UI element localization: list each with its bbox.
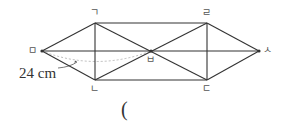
label-siot: ㅅ <box>263 45 272 55</box>
label-mieum: ㅁ <box>28 46 37 56</box>
point-mieum <box>40 49 43 52</box>
measurement-label: 24 cm <box>19 66 56 81</box>
geometry-figure: ㄱ ㄹ ㄴ ㄷ ㅁ ㅂ ㅅ 24 cm ( <box>0 0 286 124</box>
label-giyeok: ㄱ <box>90 8 99 18</box>
answer-blank-paren: ( <box>121 99 128 119</box>
point-bieup <box>149 49 152 52</box>
label-rieul: ㄹ <box>202 8 211 18</box>
label-bieup: ㅂ <box>146 55 155 65</box>
edge-siot-digeut <box>207 51 259 80</box>
edge-siot-rieul <box>207 23 259 51</box>
edge-mieum-giyeok <box>42 23 95 51</box>
point-siot <box>257 49 260 52</box>
label-digeut: ㄷ <box>202 84 211 94</box>
label-nieun: ㄴ <box>90 84 99 94</box>
figure-lines <box>0 0 286 124</box>
